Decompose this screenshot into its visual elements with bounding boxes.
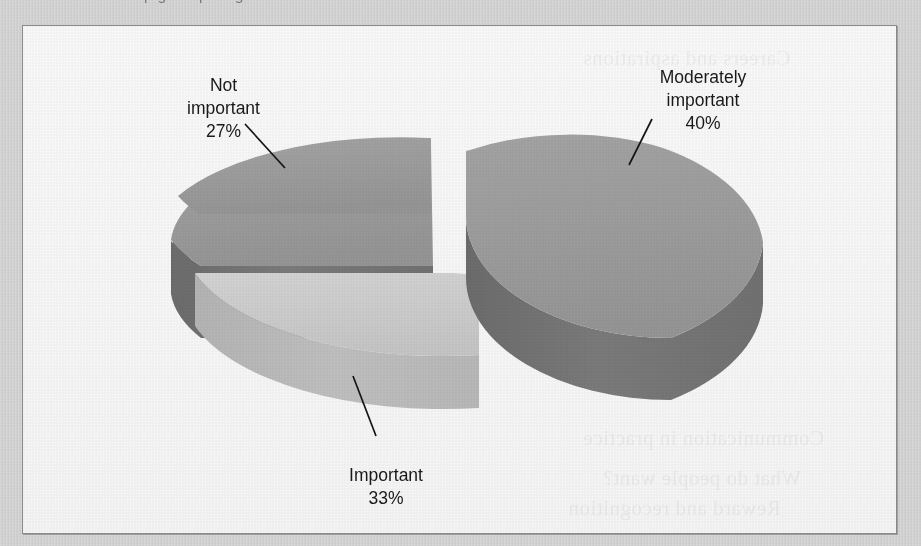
pie-label-moderately-important: Moderately important 40% (608, 66, 798, 134)
clipped-text: a r p g u o p a l g (120, 0, 244, 3)
pie-label-important-percent: 33% (291, 487, 481, 510)
pie-label-moderately-important-percent: 40% (608, 112, 798, 135)
pie-label-moderately-important-line1: Moderately (608, 66, 798, 89)
pie-slice-not-important-top-main (178, 137, 431, 214)
scanned-page-background: a r p g u o p a l g Careers and aspirati… (0, 0, 921, 546)
pie-label-not-important-line1: Not (131, 74, 316, 97)
pie-slice-moderately-important[interactable] (466, 135, 763, 400)
pie-label-not-important: Not important 27% (131, 74, 316, 142)
pie-label-not-important-percent: 27% (131, 120, 316, 143)
figure-frame: Careers and aspirations Communication in… (22, 25, 897, 534)
clipped-text-line-above-figure: a r p g u o p a l g (0, 0, 921, 22)
pie-label-important-line1: Important (291, 464, 481, 487)
pie-label-important: Important 33% (291, 464, 481, 510)
pie-label-not-important-line2: important (131, 97, 316, 120)
chart-plot-area: Careers and aspirations Communication in… (23, 26, 896, 533)
pie-label-moderately-important-line2: important (608, 89, 798, 112)
pie-slice-important[interactable] (195, 273, 479, 409)
